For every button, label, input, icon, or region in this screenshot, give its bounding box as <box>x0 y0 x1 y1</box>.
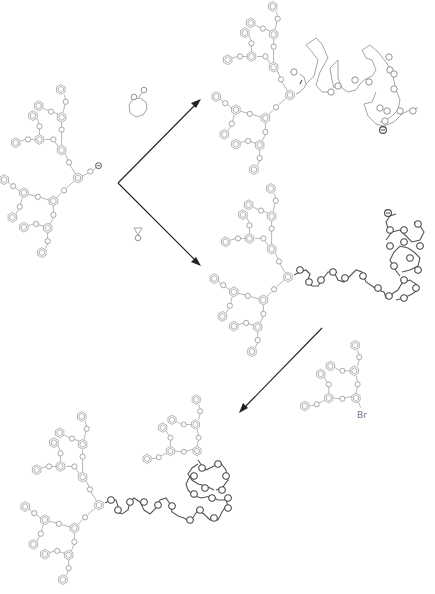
arrow-to-polyether <box>118 183 201 266</box>
starting-dendron-initiator <box>0 85 101 258</box>
reaction-scheme-canvas: Br <box>0 0 435 594</box>
epoxide-reagent-icon <box>134 228 142 241</box>
benzyl-bromide-dendron <box>301 340 362 410</box>
lactone-reagent-icon <box>129 87 147 117</box>
product-polyether <box>210 184 424 357</box>
arrow-to-dumbbell <box>239 328 322 413</box>
bromine-label: Br <box>357 410 367 420</box>
arrow-to-polyester <box>118 99 201 183</box>
product-dumbbell <box>21 395 231 585</box>
product-polyester <box>212 2 418 175</box>
